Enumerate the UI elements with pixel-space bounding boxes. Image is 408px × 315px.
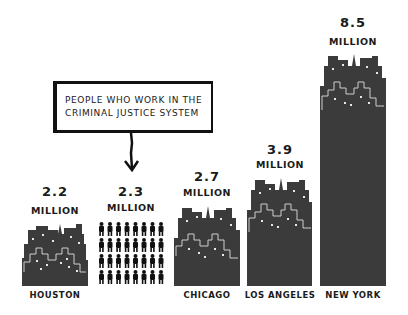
value-label-los-angeles: 3.9 [245,143,315,156]
annotation-line-2: CRIMINAL JUSTICE SYSTEM [65,107,202,120]
skyline-icon [247,178,312,286]
category-label-houston: HOUSTON [15,290,95,300]
annotation-line-1: PEOPLE WHO WORK IN THE [65,94,202,107]
category-label-los-angeles: LOS ANGELES [240,290,320,300]
skyline-icon [320,54,386,286]
category-label-chicago: CHICAGO [167,290,247,300]
bar-houston [22,224,88,286]
people-grid-icon [98,222,166,286]
unit-label-chicago: MILLION [172,188,242,198]
value-label-new-york: 8.5 [318,16,388,29]
bar-new-york [320,54,386,286]
unit-label-los-angeles: MILLION [245,160,315,170]
value-label-chicago: 2.7 [172,170,242,183]
unit-label-new-york: MILLION [318,37,388,47]
value-label-criminal-justice: 2.3 [96,185,166,198]
unit-label-criminal-justice: MILLION [96,203,166,213]
category-label-new-york: NEW YORK [313,290,393,300]
annotation-callout-box: PEOPLE WHO WORK IN THE CRIMINAL JUSTICE … [53,81,213,133]
bar-los-angeles [247,178,312,286]
arrow-down-icon [120,133,144,175]
skyline-icon [22,224,88,286]
annotation-text: PEOPLE WHO WORK IN THE CRIMINAL JUSTICE … [65,94,202,120]
bar-chicago [174,206,240,286]
skyline-icon [174,206,240,286]
value-label-houston: 2.2 [20,185,90,198]
unit-label-houston: MILLION [20,206,90,216]
